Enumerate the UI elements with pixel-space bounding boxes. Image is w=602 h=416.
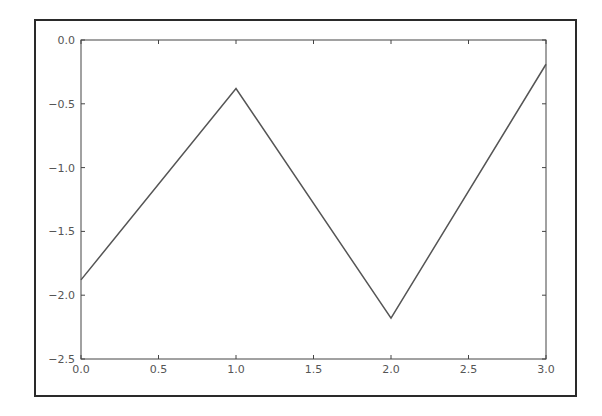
y-axis: 0.0−0.5−1.0−1.5−2.0−2.5	[48, 34, 546, 366]
x-tick-label: 2.5	[460, 363, 478, 376]
line-chart: 0.00.51.01.52.02.53.0 0.0−0.5−1.0−1.5−2.…	[0, 0, 602, 416]
x-tick-label: 1.5	[305, 363, 323, 376]
y-tick-label: −2.5	[48, 353, 75, 366]
x-tick-label: 0.5	[150, 363, 168, 376]
y-tick-label: −1.5	[48, 225, 75, 238]
x-tick-label: 2.0	[382, 363, 400, 376]
x-axis: 0.00.51.01.52.02.53.0	[72, 40, 555, 376]
data-line	[81, 64, 546, 318]
y-tick-label: −1.0	[48, 162, 75, 175]
y-tick-label: −2.0	[48, 289, 75, 302]
y-tick-label: 0.0	[58, 34, 76, 47]
plot-area	[81, 40, 546, 359]
x-tick-label: 1.0	[227, 363, 245, 376]
y-tick-label: −0.5	[48, 98, 75, 111]
x-tick-label: 3.0	[537, 363, 555, 376]
